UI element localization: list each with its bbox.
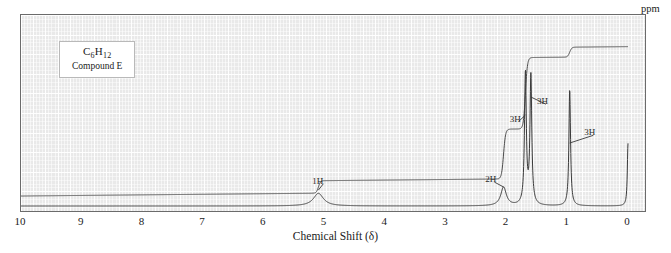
molecular-formula: C6H12	[72, 45, 122, 61]
axis-tick-7: 7	[199, 215, 205, 227]
axis-tick-10: 10	[15, 215, 26, 227]
axis-tick-3: 3	[442, 215, 448, 227]
compound-name: Compound E	[72, 61, 122, 73]
axis-tick-1: 1	[564, 215, 570, 227]
spectrum-plot-area: C6H12 Compound E 1H2H3H3H3H	[20, 14, 646, 212]
integration-label-5: 3H	[584, 127, 595, 137]
axis-tick-0: 0	[624, 215, 630, 227]
axis-tick-4: 4	[381, 215, 387, 227]
annotation-leader-lines	[318, 97, 593, 190]
axis-tick-9: 9	[78, 215, 84, 227]
compound-label-box: C6H12 Compound E	[59, 41, 135, 78]
x-axis: 109876543210	[20, 212, 646, 232]
x-axis-title: Chemical Shift (δ)	[0, 230, 671, 242]
axis-tick-6: 6	[260, 215, 266, 227]
integration-label-4: 3H	[537, 96, 548, 106]
axis-tick-5: 5	[321, 215, 327, 227]
integration-label-2: 2H	[485, 174, 496, 184]
axis-tick-8: 8	[139, 215, 145, 227]
axis-tick-2: 2	[503, 215, 509, 227]
integration-label-3: 3H	[510, 114, 521, 124]
absorption-curve	[21, 70, 628, 206]
integration-label-1: 1H	[312, 176, 323, 186]
axis-unit-label: ppm	[641, 3, 660, 14]
nmr-spectrum-figure: C6H12 Compound E 1H2H3H3H3H 109876543210…	[0, 0, 671, 253]
